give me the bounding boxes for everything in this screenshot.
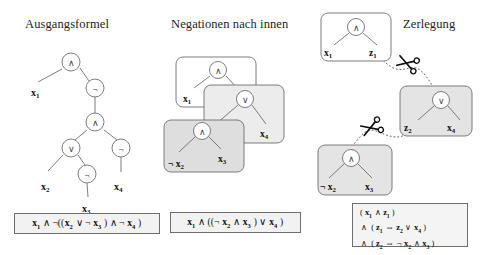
panel-decomposition: Zerlegung ∧ x1 z1 ∨ z2 x4 xyxy=(310,0,481,255)
formula-line-1: ( x1 ∧ z1 ) xyxy=(360,207,467,222)
tree-node-and: ∧ xyxy=(194,123,211,140)
tree-leaf-x1: x1 xyxy=(31,87,40,100)
formula-box-negations: x1 ∧ ((¬ x2 ∧ x3 ) ∨ x4 ) xyxy=(170,212,301,233)
tree-node-and: ∧ xyxy=(348,19,365,36)
tree-node-not: ¬ xyxy=(78,165,96,183)
tree-node-or: ∨ xyxy=(433,92,450,109)
svg-text:¬: ¬ xyxy=(84,170,89,180)
formula-box-decomposition: ( x1 ∧ z1 ) ∧ ( z1 ⇔ z2 ∨ x4 ) ∧ ( z2 ⇔ … xyxy=(352,203,468,247)
tree-leaf-x4: x4 xyxy=(114,181,123,194)
panel-negations-inward: Negationen nach innen ∧ x1 ∨ x4 xyxy=(150,0,320,255)
panel-original-formula: Ausgangsformel ∧ ¬ ∧ ∨ xyxy=(0,0,170,255)
svg-text:∧: ∧ xyxy=(199,127,206,137)
tree-node-and: ∧ xyxy=(210,62,227,79)
scissors-icon xyxy=(360,116,384,138)
tree-node-or: ∨ xyxy=(62,139,80,157)
svg-text:∨: ∨ xyxy=(438,96,445,106)
syntax-tree-decomposition: ∧ x1 z1 ∨ z2 x4 ∧ ¬ x2 x3 xyxy=(310,0,481,200)
tree-node-and: ∧ xyxy=(86,113,104,131)
svg-text:∨: ∨ xyxy=(68,144,75,154)
tree-edge xyxy=(78,155,85,165)
syntax-tree-negations: ∧ x1 ∨ x4 ∧ ¬ x2 x3 xyxy=(150,0,320,200)
svg-text:∧: ∧ xyxy=(353,23,360,33)
svg-text:∧: ∧ xyxy=(215,66,222,76)
tree-node-or: ∨ xyxy=(237,91,254,108)
formula-text: x1 ∧ ((¬ x2 ∧ x3 ) ∨ x4 ) xyxy=(187,216,283,229)
tree-edge xyxy=(75,130,87,140)
formula-box-original: x1 ∧ ¬((x2 ∨ ¬ x3 ) ∧ ¬ x4 ) xyxy=(14,213,160,234)
svg-text:¬: ¬ xyxy=(92,84,97,94)
svg-text:∧: ∧ xyxy=(348,154,355,164)
tree-edge xyxy=(87,183,88,197)
tree-node-and: ∧ xyxy=(343,150,360,167)
formula-text: x1 ∧ ¬((x2 ∨ ¬ x3 ) ∧ ¬ x4 ) xyxy=(32,217,141,230)
tree-node-not: ¬ xyxy=(112,139,130,157)
tree-edge xyxy=(38,69,62,82)
tree-node-not: ¬ xyxy=(86,79,104,97)
tree-edge xyxy=(48,155,63,171)
syntax-tree-original: ∧ ¬ ∧ ∨ ¬ ¬ x1 x2 x3 x4 xyxy=(0,0,170,210)
svg-text:∨: ∨ xyxy=(242,95,249,105)
svg-text:∧: ∧ xyxy=(68,58,75,68)
tree-leaf-x2: x2 xyxy=(41,181,50,194)
tree-edge xyxy=(104,130,117,140)
svg-text:¬: ¬ xyxy=(118,144,123,154)
formula-line-2: ∧ ( z1 ⇔ z2 ∨ x4 ) xyxy=(360,222,467,237)
tree-node-and-root: ∧ xyxy=(62,53,80,71)
tree-edge xyxy=(80,68,89,81)
svg-text:∧: ∧ xyxy=(92,118,99,128)
scissors-icon xyxy=(396,53,420,75)
formula-line-3: ∧ ( z2 ⇔ ¬ x2 ∧ x3 ) xyxy=(360,238,467,253)
